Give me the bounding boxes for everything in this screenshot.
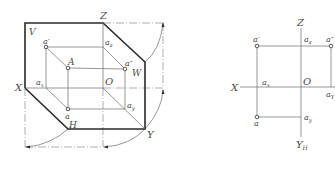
label-az: az [105,38,113,48]
label-y: Y [147,129,155,140]
proj-line-a1-A [46,47,68,68]
label-origin: O [105,76,113,87]
arrow-left-icon [103,146,108,149]
label-A: A [67,57,75,67]
y-axis [103,88,145,129]
label-plane-h: H [68,120,77,130]
proj-line-ax-a [46,88,68,109]
point-a-double-prime [329,44,333,48]
left-diagram: Z V a′ A az a″ W ax O X a ay H Y [14,10,165,149]
label-a-prime: a′ [43,37,50,46]
point-a-prime [255,44,259,48]
label-z: Z [99,10,108,21]
y-rotation-arc [105,129,145,147]
projection-diagram: Z V a′ A az a″ W ax O X a ay H Y Z a′ az… [0,0,335,169]
h-rotation-arc [27,129,68,147]
label-ayw: aY [326,90,335,100]
label-plane-v: V [29,27,37,37]
proj-line-az-a2 [103,47,125,69]
w-rotation-arc-lower [145,90,163,129]
label-a-double-prime: a″ [326,35,334,44]
label-ax: ax [262,78,271,88]
label-a: a [254,119,259,128]
label-a-prime: a′ [253,35,260,44]
label-ay: ay [304,113,313,124]
arrow-left-icon [25,146,30,149]
label-yh: YH [296,139,309,151]
label-z: Z [296,17,305,28]
label-a-double-prime: a″ [125,59,133,68]
proj-line-A-a2 [68,68,125,69]
label-plane-w: W [132,68,142,78]
label-x: X [14,82,23,93]
w-rotation-arc [145,24,163,62]
right-diagram: Z a′ az a″ X ax O aY ay a YH [230,17,335,151]
label-x: X [230,82,239,93]
label-az: az [304,35,312,45]
arrow-up-icon [162,89,165,94]
label-ay: ay [127,101,136,112]
label-origin: O [303,76,311,87]
label-ax: ax [36,78,45,88]
point-a [66,107,70,111]
